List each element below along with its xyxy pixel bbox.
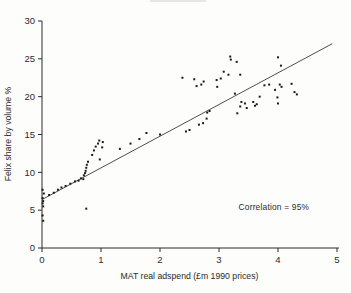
figure-canvas: 012345051015202530Correlation = 95%MAT r…: [0, 0, 351, 293]
data-point: [216, 86, 218, 88]
data-point: [65, 185, 67, 187]
data-point: [254, 105, 256, 107]
data-point: [234, 93, 236, 95]
data-point: [198, 124, 200, 126]
data-point: [84, 172, 86, 174]
data-point: [85, 170, 87, 172]
data-point: [185, 130, 187, 132]
data-point: [229, 56, 231, 58]
data-point: [83, 174, 85, 176]
data-point: [281, 86, 283, 88]
data-point: [42, 200, 44, 202]
data-point: [220, 78, 222, 80]
x-axis-tick-label: 0: [39, 254, 44, 265]
x-axis-tick-label: 2: [157, 254, 162, 265]
y-axis-tick-label: 15: [24, 129, 35, 140]
data-point: [99, 158, 101, 160]
x-axis-tick-label: 1: [98, 254, 103, 265]
y-axis-tick-label: 0: [30, 242, 35, 253]
data-point: [252, 101, 254, 103]
data-point: [48, 194, 50, 196]
data-point: [42, 197, 44, 199]
data-point: [223, 71, 225, 73]
data-point: [42, 220, 44, 222]
data-point: [259, 96, 261, 98]
data-point: [196, 85, 198, 87]
data-point: [130, 143, 132, 145]
data-point: [87, 161, 89, 163]
data-point: [206, 112, 208, 114]
data-point: [202, 122, 204, 124]
data-point: [277, 102, 279, 104]
y-axis-tick-label: 30: [24, 15, 35, 26]
data-point: [276, 96, 278, 98]
data-point: [203, 81, 205, 83]
data-point: [227, 74, 229, 76]
scatter-plot-svg: 012345051015202530Correlation = 95%MAT r…: [0, 0, 351, 293]
data-point: [85, 208, 87, 210]
y-axis-tick-label: 5: [30, 204, 35, 215]
y-axis-tick-label: 25: [24, 53, 35, 64]
data-point: [244, 102, 246, 104]
data-point: [189, 129, 191, 131]
data-point: [239, 74, 241, 76]
data-point: [296, 93, 298, 95]
data-point: [85, 167, 87, 169]
data-point: [86, 164, 88, 166]
data-point: [268, 84, 270, 86]
data-point: [200, 84, 202, 86]
data-point: [280, 65, 282, 67]
data-point: [43, 193, 45, 195]
data-point: [42, 205, 44, 207]
axes-lines: [42, 21, 339, 248]
x-axis-tick-label: 3: [216, 254, 221, 265]
data-point: [274, 89, 276, 91]
data-point: [263, 84, 265, 86]
data-point: [78, 180, 80, 182]
data-point: [209, 110, 211, 112]
trend-line: [42, 44, 332, 200]
data-point: [246, 107, 248, 109]
data-point: [93, 149, 95, 151]
data-point: [57, 189, 59, 191]
data-point: [82, 178, 84, 180]
data-point: [239, 106, 241, 108]
data-point: [101, 146, 103, 148]
data-point: [91, 154, 93, 156]
data-point: [80, 177, 82, 179]
data-point: [97, 143, 99, 145]
data-point: [159, 134, 161, 136]
data-point: [102, 141, 104, 143]
data-point: [42, 189, 44, 191]
x-axis-tick-label: 5: [334, 254, 339, 265]
data-point: [53, 192, 55, 194]
correlation-annotation: Correlation = 95%: [239, 202, 310, 212]
data-point: [236, 61, 238, 63]
data-point: [236, 112, 238, 114]
data-point: [95, 146, 97, 148]
data-point: [291, 83, 293, 85]
data-point: [145, 132, 147, 134]
data-point: [230, 59, 232, 61]
data-point: [279, 84, 281, 86]
data-point: [138, 138, 140, 140]
y-axis-tick-label: 10: [24, 167, 35, 178]
data-point: [206, 118, 208, 120]
data-point: [277, 56, 279, 58]
data-point: [193, 78, 195, 80]
data-point: [74, 180, 76, 182]
x-axis-title: MAT real adspend (£m 1990 prices): [121, 271, 259, 281]
data-point: [119, 148, 121, 150]
x-axis-tick-label: 4: [275, 254, 280, 265]
data-point: [60, 186, 62, 188]
data-point: [69, 183, 71, 185]
y-axis-tick-label: 20: [24, 91, 35, 102]
data-point: [42, 202, 44, 204]
data-point: [294, 91, 296, 93]
data-point: [256, 103, 258, 105]
data-point: [98, 140, 100, 142]
data-point: [216, 79, 218, 81]
data-point: [42, 214, 44, 216]
data-point: [181, 77, 183, 79]
y-axis-title: Felix share by volume %: [3, 86, 13, 181]
